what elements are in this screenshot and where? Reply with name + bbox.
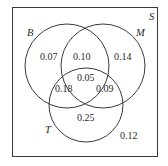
circle-m <box>61 24 145 108</box>
set-label-t: T <box>45 124 52 135</box>
universe-label: S <box>149 11 155 22</box>
region-m-t: 0.09 <box>96 83 114 94</box>
venn-diagram: S B M T 0.07 0.10 0.14 0.05 0.18 0.09 0.… <box>0 0 168 166</box>
region-b-m: 0.10 <box>73 51 91 62</box>
set-label-m: M <box>135 27 146 38</box>
region-m-only: 0.14 <box>114 51 132 62</box>
circle-b <box>25 24 109 108</box>
region-b-only: 0.07 <box>40 51 58 62</box>
region-t-only: 0.25 <box>77 112 95 123</box>
region-outside: 0.12 <box>120 130 138 141</box>
region-b-t: 0.18 <box>55 83 73 94</box>
set-label-b: B <box>27 27 34 38</box>
region-b-m-t: 0.05 <box>77 72 95 83</box>
